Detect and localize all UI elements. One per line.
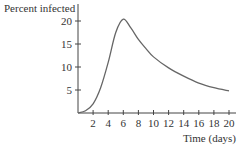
axes bbox=[78, 4, 236, 113]
x-tick-label: 10 bbox=[148, 117, 160, 129]
line-chart: 24681012141618205101520 bbox=[0, 0, 242, 148]
x-tick-label: 2 bbox=[90, 117, 96, 129]
ticks: 24681012141618205101520 bbox=[61, 15, 235, 129]
x-tick-label: 18 bbox=[208, 117, 220, 129]
x-tick-label: 8 bbox=[136, 117, 142, 129]
x-tick-label: 16 bbox=[193, 117, 205, 129]
x-tick-label: 4 bbox=[105, 117, 111, 129]
y-tick-label: 20 bbox=[61, 15, 73, 27]
x-tick-label: 20 bbox=[224, 117, 236, 129]
y-tick-label: 10 bbox=[61, 61, 73, 73]
x-tick-label: 6 bbox=[121, 117, 127, 129]
x-tick-label: 14 bbox=[178, 117, 190, 129]
x-tick-label: 12 bbox=[163, 117, 174, 129]
y-tick-label: 15 bbox=[61, 38, 73, 50]
y-tick-label: 5 bbox=[67, 84, 73, 96]
infection-curve bbox=[78, 19, 229, 113]
